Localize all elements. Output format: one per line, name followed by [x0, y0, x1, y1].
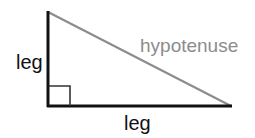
bottom-leg-label: leg [124, 112, 151, 134]
right-angle-marker [49, 86, 70, 106]
hypotenuse-line [48, 12, 231, 106]
right-triangle-diagram: leg leg hypotenuse [0, 0, 255, 138]
hypotenuse-label: hypotenuse [140, 35, 238, 56]
left-leg-label: leg [16, 51, 43, 73]
